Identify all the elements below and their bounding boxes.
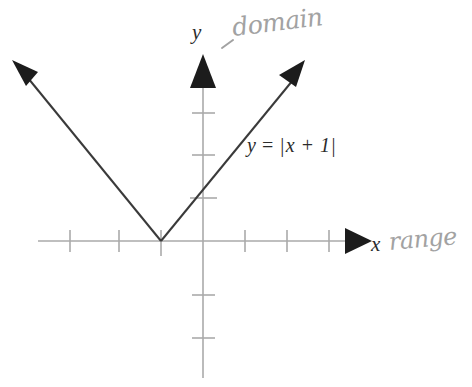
x-axis-label: x — [371, 232, 380, 257]
graph-left-arrowhead-icon — [12, 60, 38, 86]
coordinate-plane-svg — [0, 0, 472, 387]
graph-left-branch — [28, 78, 161, 241]
equation-equals: = — [262, 134, 274, 156]
equation-label: y = |x + 1| — [247, 134, 337, 157]
x-axis-arrowhead-icon — [345, 228, 372, 254]
graph-right-arrowhead-icon — [279, 60, 305, 87]
graph-right-branch — [161, 80, 293, 241]
graph-figure: y x domain range y = |x + 1| — [0, 0, 472, 387]
range-annotation: range — [388, 222, 458, 256]
equation-lhs: y — [247, 134, 256, 156]
y-axis-arrowhead-icon — [190, 54, 216, 88]
equation-inner: x + 1 — [286, 134, 331, 156]
domain-pointer-stroke — [222, 40, 233, 48]
equation-close-bar: | — [331, 134, 338, 156]
y-axis-label: y — [192, 20, 201, 45]
x-axis-ticks — [70, 230, 329, 256]
